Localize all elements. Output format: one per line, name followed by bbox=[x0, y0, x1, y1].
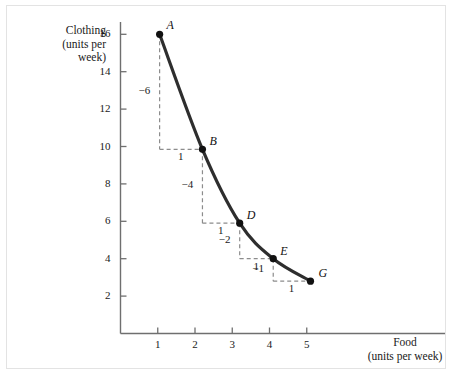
x-axis-tick-label: 4 bbox=[260, 338, 280, 350]
data-point-marker-d bbox=[236, 220, 243, 227]
data-point-marker-e bbox=[270, 255, 277, 262]
step-delta-food-label: 1 bbox=[289, 282, 295, 294]
x-axis-tick-label: 3 bbox=[222, 338, 242, 350]
y-axis-tick-label: 12 bbox=[89, 102, 111, 114]
step-delta-clothing-label: −6 bbox=[139, 84, 151, 96]
step-delta-food-label: 1 bbox=[178, 150, 184, 162]
data-point-marker-a bbox=[156, 31, 163, 38]
data-point-marker-b bbox=[199, 146, 206, 153]
step-delta-clothing-label: −1 bbox=[252, 262, 264, 274]
step-delta-clothing-label: −4 bbox=[181, 178, 193, 190]
y-axis-tick-label: 8 bbox=[89, 177, 111, 189]
data-point-label-e: E bbox=[280, 244, 287, 259]
figure-container: Clothing (units per week) Food (units pe… bbox=[0, 0, 452, 376]
y-axis-title-sub1: (units per bbox=[14, 38, 106, 52]
step-delta-clothing-label: −2 bbox=[219, 233, 231, 245]
y-axis-tick-label: 14 bbox=[89, 65, 111, 77]
y-axis-title-sub2: week) bbox=[14, 51, 106, 65]
y-axis-tick-label: 2 bbox=[89, 289, 111, 301]
y-axis-tick-label: 6 bbox=[89, 214, 111, 226]
x-axis-title-main: Food bbox=[360, 336, 450, 350]
x-axis-tick-label: 5 bbox=[297, 338, 317, 350]
x-axis-title-sub: (units per week) bbox=[360, 350, 450, 364]
data-point-label-b: B bbox=[209, 134, 216, 149]
x-axis-tick-label: 2 bbox=[185, 338, 205, 350]
x-axis-title: Food (units per week) bbox=[360, 336, 450, 363]
data-point-label-g: G bbox=[318, 266, 327, 281]
x-axis-tick-label: 1 bbox=[148, 338, 168, 350]
y-axis-tick-label: 4 bbox=[89, 252, 111, 264]
data-point-label-a: A bbox=[167, 18, 174, 33]
data-point-marker-g bbox=[307, 278, 314, 285]
data-point-label-d: D bbox=[247, 208, 256, 223]
y-axis-tick-label: 16 bbox=[89, 27, 111, 39]
axes bbox=[121, 22, 446, 334]
y-axis-tick-label: 10 bbox=[89, 140, 111, 152]
